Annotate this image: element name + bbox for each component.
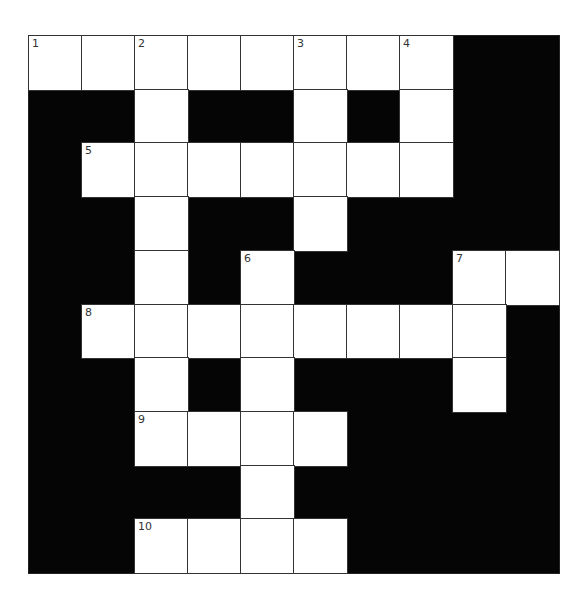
crossword-cell[interactable] xyxy=(135,305,188,359)
crossword-cell[interactable] xyxy=(241,143,294,197)
blocked-cell xyxy=(453,466,506,520)
blocked-cell xyxy=(82,358,135,412)
blocked-cell xyxy=(82,519,135,573)
blocked-cell xyxy=(29,466,82,520)
clue-number: 2 xyxy=(138,38,145,49)
blocked-cell xyxy=(400,358,453,412)
blocked-cell xyxy=(453,412,506,466)
blocked-cell xyxy=(506,466,559,520)
crossword-cell[interactable]: 2 xyxy=(135,36,188,90)
crossword-cell[interactable]: 1 xyxy=(29,36,82,90)
crossword-cell[interactable] xyxy=(241,305,294,359)
crossword-cell[interactable] xyxy=(294,143,347,197)
crossword-cell[interactable] xyxy=(241,412,294,466)
clue-number: 3 xyxy=(297,38,304,49)
crossword-cell[interactable]: 7 xyxy=(453,251,506,305)
blocked-cell xyxy=(29,197,82,251)
crossword-cell[interactable]: 9 xyxy=(135,412,188,466)
blocked-cell xyxy=(29,519,82,573)
blocked-cell xyxy=(506,519,559,573)
blocked-cell xyxy=(347,466,400,520)
crossword-cell[interactable] xyxy=(241,466,294,520)
clue-number: 10 xyxy=(138,521,152,532)
crossword-cell[interactable] xyxy=(241,358,294,412)
blocked-cell xyxy=(453,197,506,251)
clue-number: 1 xyxy=(32,38,39,49)
crossword-cell[interactable] xyxy=(453,305,506,359)
crossword-cell[interactable] xyxy=(294,90,347,144)
crossword-cell[interactable] xyxy=(400,90,453,144)
crossword-cell[interactable]: 10 xyxy=(135,519,188,573)
clue-number: 4 xyxy=(403,38,410,49)
blocked-cell xyxy=(506,36,559,90)
blocked-cell xyxy=(347,90,400,144)
blocked-cell xyxy=(400,519,453,573)
crossword-cell[interactable] xyxy=(135,358,188,412)
clue-number: 8 xyxy=(85,307,92,318)
blocked-cell xyxy=(294,358,347,412)
crossword-cell[interactable] xyxy=(347,305,400,359)
blocked-cell xyxy=(188,466,241,520)
blocked-cell xyxy=(29,412,82,466)
crossword-cell[interactable] xyxy=(400,305,453,359)
blocked-cell xyxy=(82,412,135,466)
crossword-cell[interactable] xyxy=(347,36,400,90)
blocked-cell xyxy=(29,305,82,359)
blocked-cell xyxy=(506,197,559,251)
clue-number: 7 xyxy=(456,253,463,264)
crossword-cell[interactable]: 4 xyxy=(400,36,453,90)
blocked-cell xyxy=(453,90,506,144)
crossword-cell[interactable] xyxy=(347,143,400,197)
crossword-cell[interactable] xyxy=(188,305,241,359)
crossword-cell[interactable] xyxy=(453,358,506,412)
blocked-cell xyxy=(347,412,400,466)
blocked-cell xyxy=(241,197,294,251)
crossword-cell[interactable] xyxy=(188,36,241,90)
crossword-cell[interactable]: 5 xyxy=(82,143,135,197)
blocked-cell xyxy=(294,251,347,305)
crossword-cell[interactable] xyxy=(188,519,241,573)
clue-number: 6 xyxy=(244,253,251,264)
crossword-cell[interactable] xyxy=(135,197,188,251)
crossword-cell[interactable] xyxy=(400,143,453,197)
blocked-cell xyxy=(400,412,453,466)
blocked-cell xyxy=(347,251,400,305)
crossword-cell[interactable] xyxy=(135,143,188,197)
blocked-cell xyxy=(294,466,347,520)
blocked-cell xyxy=(506,412,559,466)
blocked-cell xyxy=(506,143,559,197)
blocked-cell xyxy=(400,251,453,305)
crossword-cell[interactable] xyxy=(188,412,241,466)
crossword-cell[interactable] xyxy=(135,251,188,305)
crossword-cell[interactable]: 3 xyxy=(294,36,347,90)
crossword-cell[interactable]: 8 xyxy=(82,305,135,359)
blocked-cell xyxy=(29,143,82,197)
crossword-cell[interactable] xyxy=(241,36,294,90)
crossword-cell[interactable] xyxy=(294,197,347,251)
blocked-cell xyxy=(188,197,241,251)
blocked-cell xyxy=(506,358,559,412)
blocked-cell xyxy=(453,519,506,573)
blocked-cell xyxy=(347,197,400,251)
blocked-cell xyxy=(453,143,506,197)
crossword-cell[interactable] xyxy=(135,90,188,144)
crossword-cell[interactable] xyxy=(294,519,347,573)
blocked-cell xyxy=(82,466,135,520)
blocked-cell xyxy=(347,519,400,573)
crossword-cell[interactable] xyxy=(241,519,294,573)
crossword-cell[interactable] xyxy=(82,36,135,90)
blocked-cell xyxy=(453,36,506,90)
blocked-cell xyxy=(506,305,559,359)
crossword-grid: 12345678910 xyxy=(28,35,560,574)
crossword-cell[interactable]: 6 xyxy=(241,251,294,305)
blocked-cell xyxy=(241,90,294,144)
crossword-cell[interactable] xyxy=(188,143,241,197)
blocked-cell xyxy=(82,197,135,251)
blocked-cell xyxy=(188,90,241,144)
crossword-cell[interactable] xyxy=(294,305,347,359)
crossword-cell[interactable] xyxy=(506,251,559,305)
blocked-cell xyxy=(29,251,82,305)
blocked-cell xyxy=(135,466,188,520)
crossword-cell[interactable] xyxy=(294,412,347,466)
blocked-cell xyxy=(29,358,82,412)
